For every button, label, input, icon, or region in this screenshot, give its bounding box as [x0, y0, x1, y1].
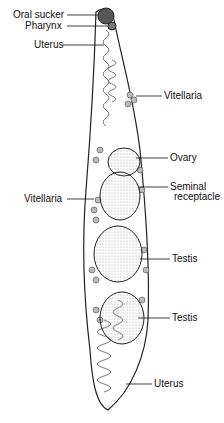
label-ovary: Ovary [170, 153, 197, 163]
label-pharynx: Pharynx [25, 21, 62, 31]
label-testis-upper: Testis [172, 254, 198, 264]
label-vitellaria-left: Vitellaria [24, 194, 62, 204]
label-vitellaria-right: Vitellaria [164, 91, 202, 101]
label-receptacle: receptacle [174, 192, 220, 202]
label-uterus-top: Uterus [34, 40, 63, 50]
label-oral-sucker: Oral sucker [13, 10, 64, 20]
label-uterus-bottom: Uterus [154, 379, 183, 389]
testis-upper-shape [94, 226, 142, 282]
testis-lower-shape [100, 292, 144, 344]
label-testis-lower: Testis [172, 313, 198, 323]
pharynx-shape [108, 22, 116, 30]
seminal-receptacle-shape [100, 172, 140, 220]
ovary-shape [108, 148, 140, 176]
fluke-illustration [0, 0, 224, 423]
